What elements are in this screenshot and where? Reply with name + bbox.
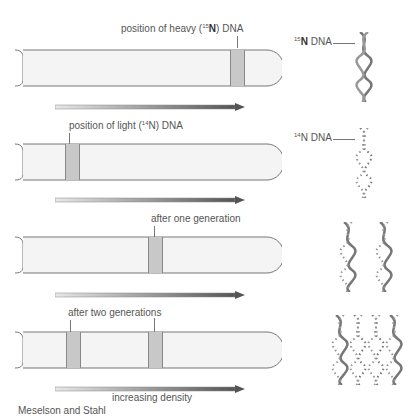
density-arrow (55, 97, 245, 105)
hybrid-dna-helix-icon (372, 222, 396, 292)
density-arrow (55, 379, 245, 387)
dna-band (148, 237, 163, 273)
heavy-dna-helix-icon (352, 32, 376, 102)
hybrid-dna-helix-icon (336, 222, 360, 292)
axis-label: increasing density (112, 392, 192, 403)
label-light-dna: position of light (14N) DNA (69, 120, 183, 131)
caption: Meselson and Stahl (18, 405, 106, 416)
label-two-generations: after two generations (68, 307, 161, 318)
label-15n-dna: 15N DNA (294, 36, 332, 47)
hybrid-dna-helix-icon (382, 315, 406, 385)
label-heavy-dna: position of heavy (15N) DNA (121, 23, 243, 34)
centrifuge-tube-2 (15, 142, 282, 182)
leader-line (237, 36, 238, 48)
dna-band (230, 50, 245, 86)
density-arrow (55, 285, 245, 293)
density-arrow (55, 190, 245, 198)
dna-band (66, 332, 81, 368)
light-dna-helix-icon (352, 128, 376, 198)
label-one-generation: after one generation (151, 213, 241, 224)
label-14n-dna: 14N DNA (294, 132, 332, 143)
dna-band (65, 144, 80, 180)
dna-band (148, 332, 163, 368)
